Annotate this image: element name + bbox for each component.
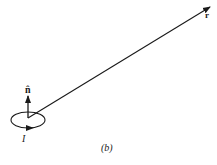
figure-caption: (b) [101, 142, 113, 154]
position-vector-arrow [28, 7, 210, 118]
current-label: I [21, 133, 26, 144]
normal-label: n̂ [25, 84, 31, 95]
position-label: r [205, 10, 209, 20]
diagram-canvas: n̂ r I (b) [0, 0, 217, 165]
